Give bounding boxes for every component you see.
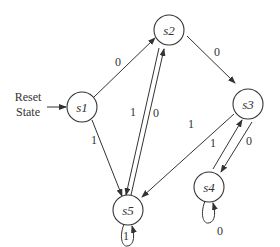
state-label: s2 bbox=[163, 23, 175, 38]
edge-label: 1 bbox=[210, 136, 216, 150]
edge-label: 0 bbox=[153, 106, 159, 120]
transition-s2-s5: 1 bbox=[126, 48, 159, 195]
state-label: s3 bbox=[242, 97, 254, 112]
reset-indicator: Reset State bbox=[15, 90, 66, 119]
edge-arrow bbox=[187, 36, 235, 83]
edge-label: 1 bbox=[123, 229, 129, 243]
reset-label-line2: State bbox=[16, 105, 40, 119]
reset-label-line1: Reset bbox=[15, 90, 42, 104]
edge-arrow bbox=[126, 48, 159, 195]
edge-label: 0 bbox=[246, 134, 252, 148]
state-s1: s1 bbox=[67, 92, 97, 122]
edge-label: 1 bbox=[130, 105, 136, 119]
edge-label: 1 bbox=[91, 133, 97, 147]
state-label: s4 bbox=[203, 180, 215, 195]
state-s3: s3 bbox=[233, 89, 263, 119]
edge-arrow bbox=[131, 49, 164, 195]
state-s4: s4 bbox=[194, 172, 224, 202]
edge-label: 0 bbox=[217, 224, 223, 238]
transition-s2-s3: 0 bbox=[187, 36, 235, 83]
transition-s5-s2: 0 bbox=[131, 49, 164, 195]
transition-s1-s5: 1 bbox=[91, 120, 122, 196]
edge-label: 0 bbox=[115, 55, 121, 69]
state-label: s1 bbox=[76, 100, 88, 115]
state-s2: s2 bbox=[154, 15, 184, 45]
edge-arrow bbox=[94, 38, 155, 97]
state-label: s5 bbox=[122, 203, 134, 218]
transition-s4-s3: 1 bbox=[210, 120, 242, 169]
edge-arrow bbox=[92, 120, 122, 196]
transition-s4-self: 0 bbox=[202, 201, 223, 238]
state-diagram: Reset State 0 1 0 1 0 1 0 1 bbox=[0, 0, 280, 247]
edge-label: 1 bbox=[188, 117, 194, 131]
transition-s5-self: 1 bbox=[121, 224, 133, 246]
edge-label: 0 bbox=[214, 45, 220, 59]
edge-loop bbox=[202, 201, 214, 223]
state-s5: s5 bbox=[113, 195, 143, 225]
transition-s1-s2: 0 bbox=[94, 38, 155, 97]
